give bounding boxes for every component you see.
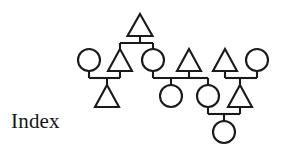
symbol-triangle-g2-1: [108, 49, 132, 71]
symbol-triangle-g3-1: [95, 85, 119, 107]
symbol-circle-g3-2: [197, 85, 219, 107]
symbol-triangle-g2-2: [177, 49, 201, 71]
index-label: Index: [11, 108, 60, 134]
symbol-circle-g2-2: [142, 49, 164, 71]
pedigree-figure: Index: [0, 0, 285, 156]
symbol-circle-g4-1: [213, 121, 235, 143]
symbol-circle-g3-1: [160, 85, 182, 107]
symbol-circle-g2-1: [78, 49, 100, 71]
symbol-triangle-g3-2: [228, 85, 252, 107]
symbol-triangle-g1: [128, 14, 153, 36]
symbol-circle-g2-3: [246, 49, 268, 71]
symbol-triangle-g2-3: [213, 49, 237, 71]
